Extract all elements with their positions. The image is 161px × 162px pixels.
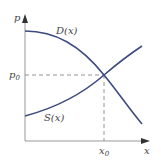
x-axis-arrow-icon (141, 138, 150, 144)
x-axis-label: x (144, 145, 150, 156)
demand-label: D(x) (55, 25, 78, 36)
supply-label: S(x) (44, 112, 64, 123)
y-axis-arrow-icon (22, 14, 28, 23)
supply-demand-chart: p x D(x) S(x) p0 x0 (0, 0, 161, 162)
y-axis-label: p (14, 12, 21, 23)
p0-label: p0 (9, 69, 20, 82)
supply-curve (25, 46, 142, 116)
x0-label: x0 (99, 145, 110, 158)
